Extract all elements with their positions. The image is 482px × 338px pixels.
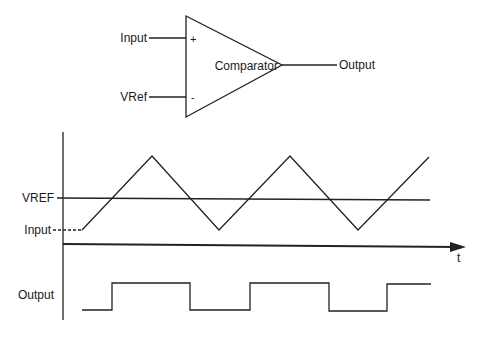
vref-level-line <box>57 198 430 200</box>
time-axis <box>63 244 458 247</box>
comparator-label: Comparator <box>215 59 278 73</box>
plus-sign: + <box>190 33 196 45</box>
minus-sign: - <box>191 91 195 103</box>
input-level-label: Input <box>24 223 51 237</box>
comparator-diagram: Comparator Input VRef Output + - VREF In… <box>0 0 482 338</box>
output-square-wave <box>82 283 431 311</box>
output-wave-label: Output <box>18 288 55 302</box>
input-triangle-wave <box>82 156 429 230</box>
input-label: Input <box>120 31 147 45</box>
time-label: t <box>457 251 461 265</box>
output-label: Output <box>339 58 376 72</box>
vref-label: VRef <box>120 90 147 104</box>
vref-level-label: VREF <box>22 191 54 205</box>
